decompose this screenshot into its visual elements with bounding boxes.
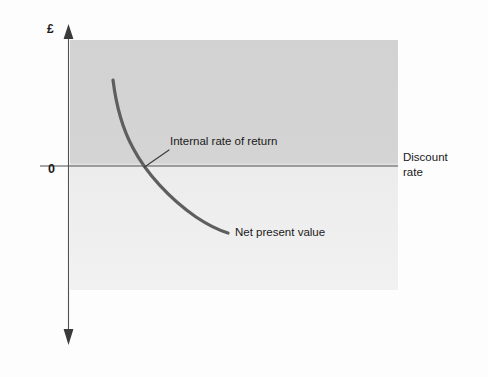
npv-irr-figure: £ 0 Discount rate Internal rate of retur… — [0, 0, 488, 377]
y-axis-label: £ — [47, 22, 54, 36]
npv-annotation-label: Net present value — [235, 226, 325, 238]
x-axis-label-line2: rate — [403, 166, 423, 178]
irr-annotation-label: Internal rate of return — [170, 135, 277, 147]
zero-label: 0 — [48, 162, 55, 176]
x-axis-label-line1: Discount — [403, 151, 449, 163]
plot-area-shading — [70, 40, 398, 290]
